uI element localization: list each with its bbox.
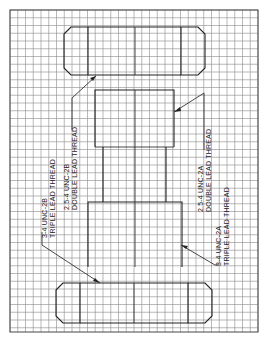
label-right-inner: 2.5-4 UNC-2A DOUBLE LEAD THREAD (197, 129, 212, 212)
label-left-outer: 3-4 UNC-2B TRIPLE LEAD THREAD (41, 159, 56, 238)
top-nut-left-hatch (64, 27, 88, 75)
svg-text:2.5-4 UNC-2A: 2.5-4 UNC-2A (197, 166, 204, 212)
leader-left-outer (42, 232, 100, 283)
svg-text:3-4 UNC-2A: 3-4 UNC-2A (215, 226, 222, 266)
leader-right-outer (181, 245, 219, 265)
svg-text:3-4 UNC-2B: 3-4 UNC-2B (41, 198, 48, 238)
top-nut-right-hatch (181, 27, 205, 75)
svg-text:TRIPLE LEAD THREAD: TRIPLE LEAD THREAD (49, 159, 56, 238)
label-right-outer: 3-4 UNC-2A TRIPLE LEAD THREAD (215, 187, 230, 266)
svg-text:2.5-4 UNC-2B: 2.5-4 UNC-2B (63, 164, 70, 210)
top-nut (64, 27, 205, 75)
svg-text:DOUBLE LEAD THREAD: DOUBLE LEAD THREAD (205, 129, 212, 212)
svg-text:TRIPLE LEAD THREAD: TRIPLE LEAD THREAD (223, 187, 230, 266)
drawing-canvas: 3-4 UNC-2B TRIPLE LEAD THREAD 2.5-4 UNC-… (0, 0, 266, 341)
svg-text:DOUBLE LEAD THREAD: DOUBLE LEAD THREAD (71, 127, 78, 210)
stepped-shaft (88, 90, 182, 267)
label-left-inner: 2.5-4 UNC-2B DOUBLE LEAD THREAD (63, 127, 78, 210)
